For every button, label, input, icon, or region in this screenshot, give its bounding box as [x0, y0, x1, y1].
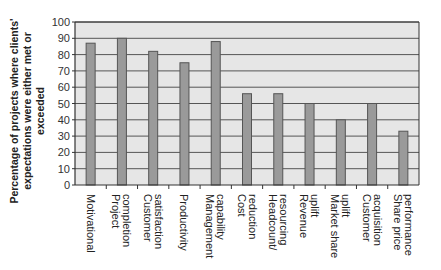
x-tick-label: Project: [110, 194, 122, 228]
x-tick-label: uplift: [340, 194, 352, 217]
x-tick-label: performance: [403, 194, 415, 256]
y-tick-label: 70: [58, 65, 70, 77]
y-tick-label: 90: [58, 32, 70, 44]
x-tick-label: Cost: [236, 194, 248, 217]
x-tick-label: uplift: [309, 194, 321, 217]
bar: [274, 94, 283, 185]
bar: [368, 104, 377, 186]
x-tick-label: capability: [215, 194, 227, 240]
x-tick-label: Productivity: [178, 194, 190, 251]
x-tick-label: Customer: [142, 194, 154, 242]
x-tick-label: acquisition: [372, 194, 384, 246]
plot-area: 0102030405060708090100MotivationalProjec…: [52, 16, 419, 258]
bar: [86, 43, 95, 185]
x-tick-label: Management: [204, 194, 216, 258]
bar: [180, 63, 189, 185]
bar: [117, 38, 126, 185]
x-tick-label: resourcing: [278, 194, 290, 245]
x-tick-label: Motivational: [85, 194, 97, 253]
y-tick-label: 80: [58, 49, 70, 61]
y-tick-label: 60: [58, 81, 70, 93]
bar: [243, 94, 252, 185]
bar-chart: 0102030405060708090100MotivationalProjec…: [0, 0, 441, 270]
x-tick-label: Headcount/: [267, 194, 279, 251]
y-tick-label: 10: [58, 163, 70, 175]
x-tick-label: Share price: [392, 194, 404, 250]
bar: [211, 42, 220, 185]
y-tick-label: 20: [58, 146, 70, 158]
y-tick-label: 40: [58, 114, 70, 126]
bar: [399, 131, 408, 185]
y-tick-label: 30: [58, 130, 70, 142]
x-tick-label: Customer: [361, 194, 373, 242]
bar: [336, 120, 345, 185]
x-tick-label: satisfaction: [153, 194, 165, 249]
y-tick-label: 50: [58, 98, 70, 110]
y-tick-label: 100: [52, 16, 70, 28]
x-tick-label: Revenue: [298, 194, 310, 238]
x-tick-label: completion: [121, 194, 133, 247]
bar: [149, 51, 158, 185]
y-tick-label: 0: [64, 179, 70, 191]
x-tick-label: reduction: [247, 194, 259, 239]
bar: [305, 104, 314, 186]
x-tick-label: Market share: [329, 194, 341, 258]
